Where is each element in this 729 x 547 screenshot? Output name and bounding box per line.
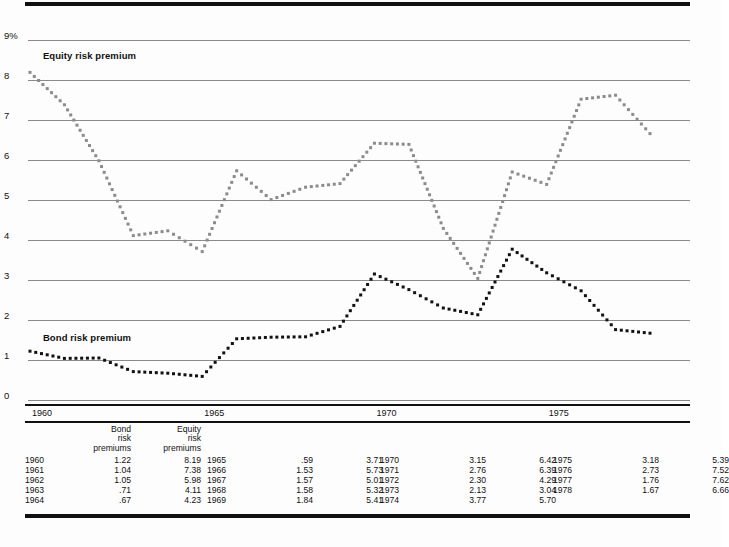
table-cell-equity-premium: 4.11: [25, 485, 201, 495]
data-point-dot: [373, 273, 376, 276]
data-point-dot: [505, 188, 508, 191]
data-point-dot: [342, 320, 345, 323]
data-point-dot: [591, 96, 594, 99]
data-point-dot: [507, 182, 510, 185]
data-point-dot: [453, 309, 456, 312]
data-point-dot: [333, 183, 336, 186]
table-row: 19732.133.04: [380, 485, 555, 495]
data-point-dot: [419, 171, 422, 174]
y-axis-tick-label: 1: [4, 350, 28, 361]
data-point-dot: [195, 374, 198, 377]
data-point-dot: [390, 142, 393, 145]
table-cell-equity-premium: 3.71: [207, 455, 383, 465]
data-point-dot: [298, 188, 301, 191]
data-point-dot: [287, 336, 290, 339]
data-point-dot: [223, 198, 226, 201]
data-point-dot: [66, 108, 69, 111]
data-point-dot: [92, 357, 95, 360]
x-axis-rule: [25, 404, 690, 406]
data-point-dot: [402, 286, 405, 289]
data-point-dot: [525, 258, 528, 261]
table-cell-equity-premium: 8.19: [25, 455, 201, 465]
data-point-dot: [402, 143, 405, 146]
data-point-dot: [109, 361, 112, 364]
y-axis-tick-label: 4: [4, 230, 28, 241]
data-point-dot: [496, 275, 499, 278]
data-point-dot: [473, 272, 476, 275]
y-axis-tick-label: 3: [4, 270, 28, 281]
data-point-dot: [476, 313, 479, 316]
data-point-dot: [339, 325, 342, 328]
data-point-dot: [29, 350, 32, 353]
data-point-dot: [480, 265, 483, 268]
data-point-dot: [252, 337, 255, 340]
data-point-dot: [495, 218, 498, 221]
data-point-dot: [218, 356, 221, 359]
data-point-dot: [484, 253, 487, 256]
data-point-dot: [29, 71, 32, 74]
data-point-dot: [321, 184, 324, 187]
data-point-dot: [384, 142, 387, 145]
data-point-dot: [631, 330, 634, 333]
data-point-dot: [33, 75, 36, 78]
data-point-dot: [423, 182, 426, 185]
data-point-dot: [287, 192, 290, 195]
data-point-dot: [580, 289, 583, 292]
data-point-dot: [545, 271, 548, 274]
data-point-dot: [189, 243, 192, 246]
data-point-dot: [373, 142, 376, 145]
data-point-dot: [86, 357, 89, 360]
data-point-dot: [511, 248, 514, 251]
data-point-dot: [561, 143, 564, 146]
data-point-dot: [258, 336, 261, 339]
table-header-equity: Equity: [25, 425, 201, 434]
data-point-dot: [85, 139, 88, 142]
table-cell-equity-premium: 5.73: [207, 465, 383, 475]
data-point-dot: [161, 371, 164, 374]
data-point-dot: [132, 370, 135, 373]
data-point-dot: [605, 318, 608, 321]
data-point-dot: [34, 351, 37, 354]
data-point-dot: [143, 233, 146, 236]
data-point-dot: [459, 310, 462, 313]
data-point-dot: [281, 194, 284, 197]
data-point-dot: [63, 103, 66, 106]
table-row: 19671.575.01: [207, 475, 382, 485]
data-point-dot: [608, 94, 611, 97]
data-point-dot: [557, 155, 560, 158]
data-point-dot: [41, 83, 44, 86]
data-point-dot: [366, 283, 369, 286]
data-point-dot: [469, 267, 472, 270]
x-axis-tick-label: 1970: [376, 408, 396, 418]
data-point-dot: [379, 142, 382, 145]
data-point-dot: [206, 239, 209, 242]
data-point-dot: [54, 95, 57, 98]
data-point-dot: [490, 236, 493, 239]
data-point-dot: [407, 143, 410, 146]
data-point-dot: [293, 335, 296, 338]
data-point-dot: [143, 371, 146, 374]
data-point-dot: [215, 215, 218, 218]
data-point-dot: [637, 331, 640, 334]
data-point-dot: [485, 297, 488, 300]
data-point-dot: [209, 366, 212, 369]
data-point-dot: [365, 151, 368, 154]
data-point-dot: [516, 173, 519, 176]
data-point-dot: [437, 216, 440, 219]
data-point-dot: [275, 196, 278, 199]
data-point-dot: [138, 370, 141, 373]
data-point-dot: [116, 200, 119, 203]
data-point-dot: [491, 286, 494, 289]
data-point-dot: [627, 108, 630, 111]
data-point-dot: [410, 149, 413, 152]
data-point-dot: [516, 251, 519, 254]
data-point-dot: [275, 336, 278, 339]
data-point-dot: [539, 181, 542, 184]
table-top-rule: [25, 421, 690, 423]
data-point-dot: [511, 171, 514, 174]
data-point-dot: [211, 227, 214, 230]
data-point-dot: [304, 335, 307, 338]
y-axis-tick-label: 7: [4, 110, 28, 121]
data-point-dot: [566, 132, 569, 135]
data-point-dot: [97, 357, 100, 360]
